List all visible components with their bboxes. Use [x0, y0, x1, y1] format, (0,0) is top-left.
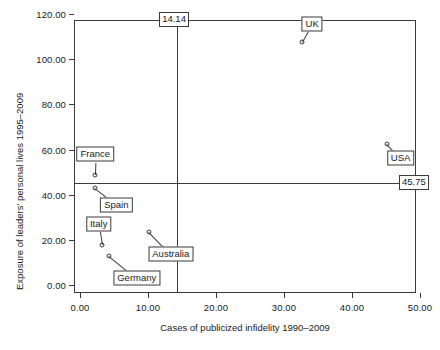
- data-marker[interactable]: [385, 141, 390, 146]
- data-point-label[interactable]: UK: [302, 17, 323, 32]
- x-tick-label: 40.00: [340, 302, 364, 313]
- x-tick-mark: [216, 293, 217, 298]
- data-point-label[interactable]: Spain: [100, 197, 132, 212]
- reference-line-label: 45.75: [399, 175, 429, 190]
- data-marker[interactable]: [147, 229, 152, 234]
- y-tick-label: 40.00: [0, 189, 66, 200]
- x-tick-label: 20.00: [204, 302, 228, 313]
- data-marker[interactable]: [106, 253, 111, 258]
- y-tick-label: 0.00: [0, 280, 66, 291]
- data-point-label[interactable]: Italy: [86, 216, 111, 231]
- plot-area: FranceSpainItalyGermanyAustraliaUKUSA: [74, 20, 416, 293]
- x-tick-mark: [420, 293, 421, 298]
- y-tick-label: 100.00: [0, 54, 66, 65]
- data-point-label[interactable]: Australia: [148, 247, 193, 262]
- reference-line-horizontal: [75, 183, 415, 184]
- x-axis-title: Cases of publicized infidelity 1990–2009: [74, 322, 416, 333]
- x-tick-mark: [352, 293, 353, 298]
- x-tick-label: 50.00: [408, 302, 432, 313]
- x-tick-mark: [284, 293, 285, 298]
- x-tick-label: 30.00: [272, 302, 296, 313]
- x-tick-mark: [80, 293, 81, 298]
- x-tick-label: 0.00: [71, 302, 90, 313]
- data-marker[interactable]: [300, 40, 305, 45]
- data-point-label[interactable]: USA: [387, 151, 415, 166]
- y-tick-label: 20.00: [0, 234, 66, 245]
- y-tick-label: 60.00: [0, 144, 66, 155]
- y-tick-mark: [69, 14, 74, 15]
- y-axis-title: Exposure of leaders' personal lives 1995…: [14, 93, 25, 290]
- data-point-label[interactable]: France: [76, 146, 114, 161]
- x-tick-mark: [148, 293, 149, 298]
- data-marker[interactable]: [92, 173, 97, 178]
- x-tick-label: 10.00: [136, 302, 160, 313]
- scatter-chart: 0.0020.0040.0060.0080.00100.00120.00 0.0…: [0, 0, 440, 350]
- y-tick-label: 80.00: [0, 99, 66, 110]
- data-marker[interactable]: [92, 185, 97, 190]
- data-marker[interactable]: [100, 243, 105, 248]
- y-tick-label: 120.00: [0, 9, 66, 20]
- reference-line-label: 14.14: [159, 12, 189, 27]
- data-point-label[interactable]: Germany: [113, 271, 160, 286]
